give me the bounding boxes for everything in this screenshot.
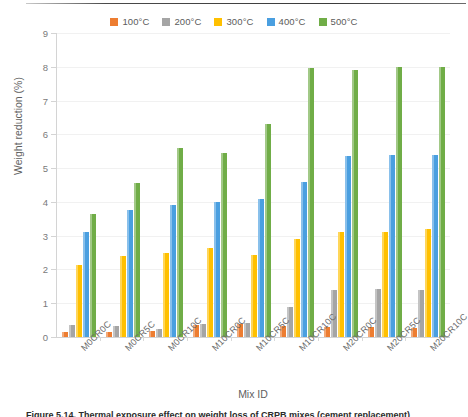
y-axis-tick-mark xyxy=(51,67,56,68)
legend-item[interactable]: 100°C xyxy=(110,16,149,27)
y-axis-tick-mark xyxy=(51,337,56,338)
legend-swatch-500c xyxy=(319,18,327,26)
bar-300c[interactable] xyxy=(120,256,126,337)
figure-weight-reduction-chart: 100°C 200°C 300°C 400°C 500°C Weight red… xyxy=(0,0,468,417)
bar-highlight xyxy=(62,332,64,337)
bar-300c[interactable] xyxy=(76,265,82,337)
bar-100c[interactable] xyxy=(106,332,112,337)
y-axis-tick-label: 5 xyxy=(26,163,48,174)
bar-200c[interactable] xyxy=(156,329,162,337)
bar-400c[interactable] xyxy=(432,155,438,337)
bar-500c[interactable] xyxy=(177,148,183,337)
bar-300c[interactable] xyxy=(251,255,257,337)
bar-400c[interactable] xyxy=(345,156,351,337)
y-axis-tick-label: 3 xyxy=(26,230,48,241)
x-axis-tick-labels: M0CR0CM0CR5CM0CR10CM10CR0CM10CR5CM10CR10… xyxy=(57,341,450,389)
y-axis-tick-label: 8 xyxy=(26,61,48,72)
chart-legend: 100°C 200°C 300°C 400°C 500°C xyxy=(0,16,468,27)
legend-item[interactable]: 500°C xyxy=(319,16,358,27)
x-axis-tick-cell: M10CR0C xyxy=(188,341,232,389)
bar-highlight xyxy=(425,229,427,337)
bar-200c[interactable] xyxy=(113,326,119,337)
bar-highlight xyxy=(170,205,172,337)
bar-500c[interactable] xyxy=(396,67,402,337)
bar-500c[interactable] xyxy=(308,68,314,337)
y-axis-tick-label: 7 xyxy=(26,95,48,106)
bar-300c[interactable] xyxy=(207,248,213,338)
x-axis-tick-cell: M0CR10C xyxy=(144,341,188,389)
y-axis-tick-mark xyxy=(51,33,56,34)
bar-highlight xyxy=(83,232,85,337)
bar-highlight xyxy=(301,182,303,337)
bar-group xyxy=(275,33,319,337)
bar-300c[interactable] xyxy=(382,232,388,337)
x-axis-tick-cell: M0CR0C xyxy=(57,341,101,389)
bar-highlight xyxy=(389,155,391,337)
bar-highlight xyxy=(163,253,165,337)
bar-300c[interactable] xyxy=(338,232,344,337)
bar-highlight xyxy=(375,289,377,337)
legend-label-300c: 300°C xyxy=(226,16,253,27)
bar-highlight xyxy=(251,255,253,337)
bar-highlight xyxy=(338,232,340,337)
x-axis-tick-cell: M20CR0C xyxy=(319,341,363,389)
bar-group xyxy=(101,33,145,337)
bar-200c[interactable] xyxy=(418,290,424,337)
legend-item[interactable]: 400°C xyxy=(267,16,306,27)
bar-highlight xyxy=(214,202,216,337)
bar-500c[interactable] xyxy=(134,183,140,337)
bar-highlight xyxy=(345,156,347,337)
x-axis-tick-cell: M10CR5C xyxy=(232,341,276,389)
y-axis-tick-mark xyxy=(51,134,56,135)
bar-500c[interactable] xyxy=(439,67,445,337)
bar-100c[interactable] xyxy=(62,332,68,337)
legend-swatch-100c xyxy=(110,18,118,26)
bar-highlight xyxy=(396,67,398,337)
y-axis-tick-label: 2 xyxy=(26,264,48,275)
y-axis-tick-labels: 0123456789 xyxy=(24,33,48,338)
bar-500c[interactable] xyxy=(352,70,358,337)
bar-400c[interactable] xyxy=(258,199,264,337)
y-axis-tick-label: 6 xyxy=(26,129,48,140)
bar-highlight xyxy=(120,256,122,337)
legend-item[interactable]: 300°C xyxy=(214,16,253,27)
y-axis-title: Weight reduction (%) xyxy=(12,26,24,226)
bar-200c[interactable] xyxy=(375,289,381,337)
bar-groups xyxy=(57,33,450,337)
bar-highlight xyxy=(221,153,223,337)
x-axis-tick-cell: M0CR5C xyxy=(101,341,145,389)
bar-200c[interactable] xyxy=(200,324,206,338)
bar-400c[interactable] xyxy=(127,210,133,337)
legend-item[interactable]: 200°C xyxy=(162,16,201,27)
x-axis-tick-cell: M20CR10C xyxy=(406,341,450,389)
page-scan-top-rule xyxy=(26,3,466,4)
bar-400c[interactable] xyxy=(389,155,395,337)
bar-400c[interactable] xyxy=(170,205,176,337)
bar-500c[interactable] xyxy=(265,124,271,337)
legend-swatch-300c xyxy=(214,18,222,26)
legend-label-400c: 400°C xyxy=(279,16,306,27)
bar-200c[interactable] xyxy=(69,325,75,337)
figure-caption-text: Figure 5.14. Thermal exposure effect on … xyxy=(26,410,442,417)
bar-group xyxy=(363,33,407,337)
x-axis-title: Mix ID xyxy=(56,388,450,400)
y-axis-tick-label: 9 xyxy=(26,28,48,39)
bar-500c[interactable] xyxy=(90,214,96,337)
bar-400c[interactable] xyxy=(214,202,220,337)
bar-300c[interactable] xyxy=(425,229,431,337)
bar-group xyxy=(319,33,363,337)
bar-highlight xyxy=(382,232,384,337)
x-axis-tick-cell: M10CR10C xyxy=(275,341,319,389)
bar-300c[interactable] xyxy=(163,253,169,337)
y-axis-tick-label: 4 xyxy=(26,196,48,207)
y-axis-tick-mark xyxy=(51,236,56,237)
y-axis-tick-mark xyxy=(51,202,56,203)
legend-label-200c: 200°C xyxy=(174,16,201,27)
bar-400c[interactable] xyxy=(301,182,307,337)
bar-500c[interactable] xyxy=(221,153,227,337)
bar-300c[interactable] xyxy=(294,239,300,337)
bar-400c[interactable] xyxy=(83,232,89,337)
bar-highlight xyxy=(90,214,92,337)
bar-highlight xyxy=(258,199,260,337)
bar-highlight xyxy=(432,155,434,337)
